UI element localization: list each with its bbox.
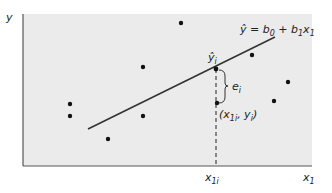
data-point: [286, 80, 290, 84]
data-point: [179, 21, 183, 25]
data-point: [68, 114, 72, 118]
fitted-point: [214, 67, 219, 72]
x-tick-label: x1i: [204, 171, 220, 186]
x-axis-label: x1: [302, 171, 315, 186]
data-point: [272, 99, 276, 103]
data-point: [141, 65, 145, 69]
data-point: [141, 114, 145, 118]
data-point: [68, 102, 72, 106]
y-axis-label: y: [5, 11, 13, 24]
data-point: [215, 101, 219, 105]
regression-diagram: y x1 x1i ŷ = b0 + b1x1 ŷi ei (x1i, yi): [0, 0, 332, 193]
regression-equation: ŷ = b0 + b1x1: [239, 23, 315, 38]
data-point: [106, 137, 110, 141]
data-point: [250, 53, 254, 57]
